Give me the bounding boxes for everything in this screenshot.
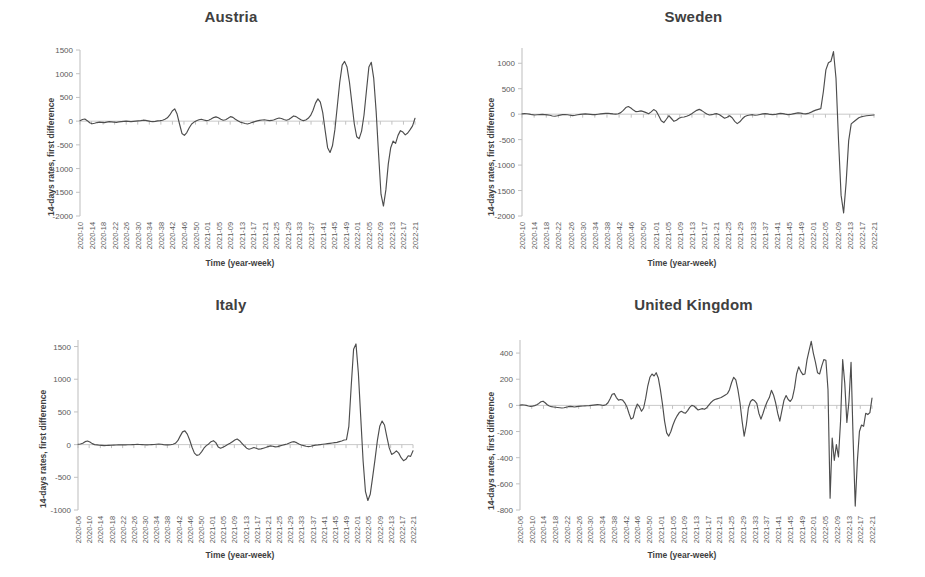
- svg-text:400: 400: [500, 349, 514, 358]
- svg-text:500: 500: [60, 93, 74, 102]
- svg-text:500: 500: [502, 85, 516, 94]
- svg-text:2022-17: 2022-17: [858, 222, 867, 249]
- svg-text:2020-34: 2020-34: [152, 516, 161, 543]
- svg-text:2022-17: 2022-17: [398, 516, 407, 543]
- svg-text:2020-10: 2020-10: [85, 516, 94, 543]
- svg-text:2020-38: 2020-38: [610, 516, 619, 543]
- svg-text:2021-49: 2021-49: [342, 516, 351, 543]
- svg-text:1000: 1000: [53, 375, 71, 384]
- svg-text:2020-06: 2020-06: [516, 516, 525, 543]
- svg-text:2021-13: 2021-13: [688, 222, 697, 249]
- svg-text:2020-22: 2020-22: [554, 222, 563, 249]
- svg-text:2020-10: 2020-10: [518, 222, 527, 249]
- svg-text:2022-01: 2022-01: [353, 222, 362, 249]
- svg-text:2021-01: 2021-01: [208, 516, 217, 543]
- svg-text:2020-50: 2020-50: [645, 516, 654, 543]
- svg-text:-500: -500: [57, 141, 74, 150]
- svg-text:2020-14: 2020-14: [530, 222, 539, 249]
- svg-text:2021-49: 2021-49: [342, 222, 351, 249]
- svg-text:2020-34: 2020-34: [598, 516, 607, 543]
- svg-text:2020-18: 2020-18: [99, 222, 108, 249]
- svg-text:2021-37: 2021-37: [761, 222, 770, 249]
- svg-text:1000: 1000: [55, 70, 73, 79]
- svg-text:2022-13: 2022-13: [845, 516, 854, 543]
- svg-text:2020-42: 2020-42: [175, 516, 184, 543]
- svg-text:2022-09: 2022-09: [833, 516, 842, 543]
- svg-text:2021-33: 2021-33: [751, 516, 760, 543]
- svg-text:2021-09: 2021-09: [230, 516, 239, 543]
- svg-text:0: 0: [511, 110, 516, 119]
- svg-text:2020-14: 2020-14: [539, 516, 548, 543]
- svg-text:2021-17: 2021-17: [253, 516, 262, 543]
- svg-text:2021-05: 2021-05: [215, 222, 224, 249]
- svg-text:2022-01: 2022-01: [353, 516, 362, 543]
- svg-text:2021-45: 2021-45: [786, 516, 795, 543]
- svg-text:2021-49: 2021-49: [798, 516, 807, 543]
- svg-text:2020-18: 2020-18: [108, 516, 117, 543]
- svg-text:2021-29: 2021-29: [286, 516, 295, 543]
- svg-text:1500: 1500: [55, 46, 73, 55]
- svg-text:0: 0: [509, 401, 514, 410]
- svg-text:2021-01: 2021-01: [652, 222, 661, 249]
- svg-text:2022-05: 2022-05: [364, 516, 373, 543]
- svg-text:2021-21: 2021-21: [712, 222, 721, 249]
- svg-text:-1000: -1000: [495, 161, 516, 170]
- svg-text:2022-21: 2022-21: [409, 516, 418, 543]
- svg-text:2020-26: 2020-26: [130, 516, 139, 543]
- chart-plot-united-kingdom: 4002000-200-400-600-8002020-062020-10202…: [462, 288, 925, 577]
- svg-text:2022-01: 2022-01: [809, 222, 818, 249]
- chart-plot-sweden: 10005000-500-1000-1500-20002020-102020-1…: [462, 0, 925, 288]
- svg-text:2022-05: 2022-05: [365, 222, 374, 249]
- svg-text:-500: -500: [499, 136, 516, 145]
- svg-text:-400: -400: [497, 454, 514, 463]
- svg-text:2022-21: 2022-21: [870, 222, 879, 249]
- svg-text:2020-50: 2020-50: [639, 222, 648, 249]
- svg-text:2021-13: 2021-13: [242, 516, 251, 543]
- svg-text:2021-05: 2021-05: [219, 516, 228, 543]
- svg-text:2021-33: 2021-33: [295, 222, 304, 249]
- svg-text:-1000: -1000: [51, 506, 72, 515]
- svg-text:1000: 1000: [497, 59, 515, 68]
- svg-text:2021-25: 2021-25: [724, 222, 733, 249]
- svg-text:2021-05: 2021-05: [664, 222, 673, 249]
- svg-text:0: 0: [67, 441, 72, 450]
- svg-text:2020-26: 2020-26: [575, 516, 584, 543]
- svg-text:2020-38: 2020-38: [603, 222, 612, 249]
- svg-text:2022-01: 2022-01: [809, 516, 818, 543]
- svg-text:2020-30: 2020-30: [579, 222, 588, 249]
- svg-text:2022-17: 2022-17: [399, 222, 408, 249]
- chart-panel-united-kingdom: United Kingdom 14-days rates, first diff…: [462, 288, 925, 577]
- svg-text:2021-21: 2021-21: [264, 516, 273, 543]
- svg-text:2021-49: 2021-49: [797, 222, 806, 249]
- svg-text:2022-05: 2022-05: [821, 222, 830, 249]
- svg-text:2021-45: 2021-45: [331, 516, 340, 543]
- svg-text:500: 500: [58, 408, 72, 417]
- svg-text:2021-45: 2021-45: [330, 222, 339, 249]
- svg-text:2020-14: 2020-14: [96, 516, 105, 543]
- svg-text:2022-09: 2022-09: [376, 516, 385, 543]
- figure-grid: Austria 14-days rates, first difference …: [0, 0, 925, 577]
- svg-text:2020-18: 2020-18: [551, 516, 560, 543]
- svg-text:2020-26: 2020-26: [567, 222, 576, 249]
- chart-panel-italy: Italy 14-days rates, first difference Ti…: [0, 288, 462, 577]
- svg-text:2021-05: 2021-05: [669, 516, 678, 543]
- svg-text:-1500: -1500: [53, 188, 74, 197]
- svg-text:2021-25: 2021-25: [727, 516, 736, 543]
- svg-text:2020-42: 2020-42: [622, 516, 631, 543]
- svg-text:1500: 1500: [53, 343, 71, 352]
- chart-plot-italy: 150010005000-500-10002020-062020-102020-…: [0, 288, 462, 577]
- svg-text:2020-38: 2020-38: [163, 516, 172, 543]
- svg-text:2020-26: 2020-26: [122, 222, 131, 249]
- svg-text:2021-13: 2021-13: [238, 222, 247, 249]
- svg-text:2021-21: 2021-21: [261, 222, 270, 249]
- svg-text:2020-22: 2020-22: [563, 516, 572, 543]
- svg-text:2021-29: 2021-29: [284, 222, 293, 249]
- svg-text:2020-18: 2020-18: [542, 222, 551, 249]
- svg-text:2021-25: 2021-25: [275, 516, 284, 543]
- svg-text:2021-29: 2021-29: [736, 222, 745, 249]
- svg-text:2020-10: 2020-10: [528, 516, 537, 543]
- svg-text:2021-45: 2021-45: [785, 222, 794, 249]
- svg-text:2020-22: 2020-22: [119, 516, 128, 543]
- svg-text:2021-37: 2021-37: [307, 222, 316, 249]
- svg-text:2021-09: 2021-09: [226, 222, 235, 249]
